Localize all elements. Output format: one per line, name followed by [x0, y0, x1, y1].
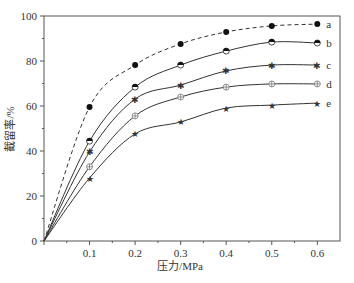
data-point-a — [223, 29, 229, 35]
data-point-a — [314, 21, 320, 27]
x-tick-label: 0.3 — [174, 247, 188, 259]
y-tick-label: 100 — [21, 10, 38, 22]
data-point-e: ★ — [177, 117, 185, 127]
curves — [44, 24, 317, 241]
data-point-b — [178, 62, 184, 68]
data-point-c: ✱ — [86, 147, 94, 157]
y-tick-label: 0 — [32, 235, 38, 247]
y-tick-label: 60 — [26, 100, 38, 112]
plot-frame — [44, 16, 340, 241]
y-axis-label: 截留率/% — [3, 106, 16, 151]
data-point-e: ★ — [86, 174, 94, 184]
svg-text:✱: ✱ — [222, 66, 230, 76]
data-point-d — [223, 84, 229, 90]
data-point-c: ✱ — [177, 81, 185, 91]
svg-text:★: ★ — [86, 174, 94, 184]
svg-text:★: ★ — [313, 99, 321, 109]
svg-text:✱: ✱ — [86, 147, 94, 157]
x-tick-label: 0.6 — [310, 247, 324, 259]
series-line-a — [44, 24, 317, 241]
chart-svg: 0204060801000.10.20.30.40.50.6 ✱✱✱✱✱✱★★★… — [0, 0, 354, 283]
series-label-e: e — [326, 97, 331, 109]
data-point-b — [269, 39, 275, 45]
data-point-c: ✱ — [268, 61, 276, 71]
svg-text:★: ★ — [222, 104, 230, 114]
chart: 0204060801000.10.20.30.40.50.6 ✱✱✱✱✱✱★★★… — [0, 0, 354, 283]
data-point-e: ★ — [313, 99, 321, 109]
x-tick-label: 0.1 — [83, 247, 97, 259]
data-point-a — [269, 23, 275, 29]
data-point-b — [87, 138, 93, 144]
data-point-e: ★ — [268, 101, 276, 111]
series-label-b: b — [326, 37, 332, 49]
series-line-b — [44, 42, 317, 241]
data-point-e: ★ — [131, 129, 139, 139]
data-point-b — [314, 40, 320, 46]
series-line-d — [44, 84, 317, 241]
data-point-d — [87, 164, 93, 170]
x-tick-label: 0.2 — [128, 247, 142, 259]
svg-text:✱: ✱ — [177, 81, 185, 91]
y-tick-label: 80 — [26, 55, 38, 67]
x-tick-label: 0.5 — [265, 247, 279, 259]
data-point-a — [132, 62, 138, 68]
markers: ✱✱✱✱✱✱★★★★★★ — [86, 21, 322, 183]
svg-text:★: ★ — [177, 117, 185, 127]
svg-text:✱: ✱ — [131, 95, 139, 105]
series-labels: abcde — [326, 18, 332, 109]
series-label-d: d — [326, 78, 332, 90]
x-tick-label: 0.4 — [219, 247, 233, 259]
data-point-c: ✱ — [222, 66, 230, 76]
svg-text:✱: ✱ — [313, 61, 321, 71]
data-point-d — [269, 81, 275, 87]
data-point-b — [223, 48, 229, 54]
axes: 0204060801000.10.20.30.40.50.6 — [21, 10, 341, 259]
svg-text:✱: ✱ — [268, 61, 276, 71]
series-label-a: a — [326, 18, 331, 30]
data-point-a — [87, 104, 93, 110]
svg-text:★: ★ — [268, 101, 276, 111]
data-point-e: ★ — [222, 104, 230, 114]
data-point-c: ✱ — [313, 61, 321, 71]
y-tick-label: 20 — [26, 190, 38, 202]
data-point-c: ✱ — [131, 95, 139, 105]
data-point-d — [314, 81, 320, 87]
data-point-d — [132, 113, 138, 119]
data-point-b — [132, 84, 138, 90]
data-point-a — [178, 41, 184, 47]
series-label-c: c — [326, 59, 331, 71]
y-tick-label: 40 — [26, 145, 38, 157]
data-point-d — [178, 94, 184, 100]
svg-text:★: ★ — [131, 129, 139, 139]
x-axis-label: 压力/MPa — [157, 260, 203, 272]
